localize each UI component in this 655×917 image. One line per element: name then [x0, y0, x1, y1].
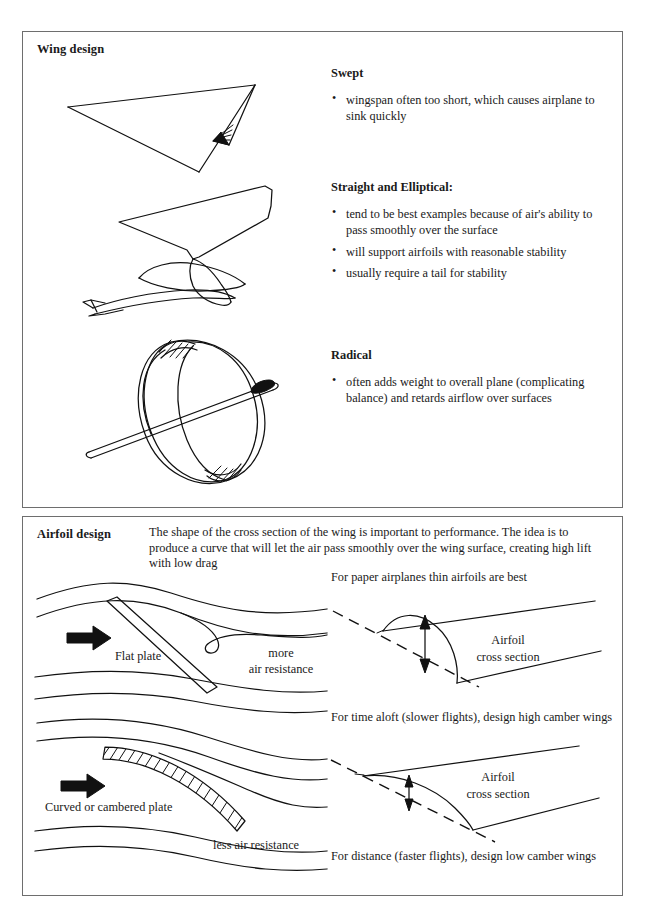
distance-caption: For distance (faster flights), design lo… [331, 849, 596, 864]
time-aloft-caption: For time aloft (slower flights), design … [331, 710, 612, 725]
radical-bullet-list: often adds weight to overall plane (comp… [331, 374, 609, 407]
list-item: often adds weight to overall plane (comp… [331, 374, 609, 407]
straight-elliptical-text-group: Straight and Elliptical: tend to be best… [331, 180, 609, 286]
radical-ring-wing-figure [75, 330, 305, 490]
more-air-resistance-label-line1: more [236, 646, 326, 661]
more-air-resistance-label-line2: air resistance [228, 662, 334, 677]
straight-and-elliptical-drawing [75, 180, 305, 320]
airfoil-design-panel: Airfoil design The shape of the cross se… [22, 516, 623, 896]
straight-elliptical-heading: Straight and Elliptical: [331, 180, 609, 195]
straight-elliptical-bullet-list: tend to be best examples because of air'… [331, 206, 609, 281]
flow-direction-arrow [67, 626, 111, 650]
airfoil-cross-section-label-high-line1: Airfoil [453, 633, 563, 648]
radical-text-group: Radical often adds weight to overall pla… [331, 348, 609, 412]
high-camber-airfoil-drawing [323, 589, 613, 709]
airfoil-cross-section-label-high-line2: cross section [443, 650, 573, 665]
airfoil-design-title: Airfoil design [37, 527, 147, 542]
list-item: tend to be best examples because of air'… [331, 206, 609, 239]
camber-height-arrow [420, 615, 430, 673]
cambered-plate-drawing [31, 709, 331, 879]
radical-heading: Radical [331, 348, 609, 363]
swept-dart-wing-figure [63, 72, 283, 182]
flat-plate-figure [31, 573, 331, 713]
flat-plate-drawing [31, 573, 331, 713]
swept-text-group: Swept wingspan often too short, which ca… [331, 66, 609, 130]
list-item: usually require a tail for stability [331, 265, 609, 281]
less-air-resistance-label: less air resistance [213, 838, 299, 853]
swept-heading: Swept [331, 66, 609, 81]
list-item: wingspan often too short, which causes a… [331, 92, 609, 125]
list-item: will support airfoils with reasonable st… [331, 244, 609, 260]
airfoil-cross-section-label-low-line1: Airfoil [443, 770, 553, 785]
flow-direction-arrow [61, 774, 105, 798]
swept-bullet-list: wingspan often too short, which causes a… [331, 92, 609, 125]
straight-and-elliptical-figure [75, 180, 305, 320]
airfoil-intro-text: The shape of the cross section of the wi… [149, 525, 611, 572]
airfoil-cross-section-label-low-line2: cross section [433, 787, 563, 802]
cambered-plate-figure [31, 709, 331, 879]
thin-airfoils-caption: For paper airplanes thin airfoils are be… [331, 570, 527, 585]
flat-plate-label: Flat plate [115, 649, 161, 664]
radical-ring-wing-drawing [75, 330, 305, 490]
high-camber-airfoil-figure [323, 589, 613, 709]
wing-design-title: Wing design [37, 42, 104, 57]
document-page: Wing design Swept [0, 0, 655, 917]
cambered-plate-label: Curved or cambered plate [45, 800, 172, 815]
swept-dart-wing-drawing [63, 72, 283, 182]
wing-design-panel: Wing design Swept [22, 31, 623, 508]
